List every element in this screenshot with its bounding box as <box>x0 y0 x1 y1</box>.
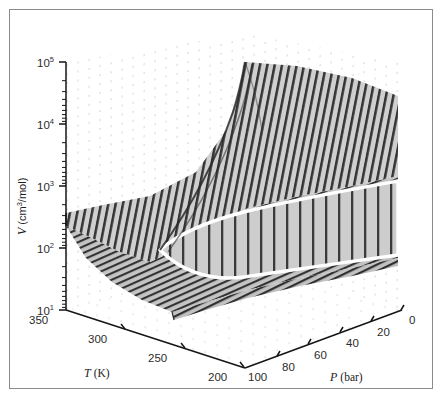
svg-text:V(cm3/mol): V(cm3/mol) <box>15 178 29 235</box>
p-tick-100: 100 <box>248 371 267 383</box>
t-tick-300: 300 <box>88 333 107 345</box>
v-tick-3: 103 <box>37 179 54 193</box>
v-tick-2: 102 <box>37 241 54 255</box>
p-tick-0: 0 <box>409 314 415 326</box>
v-axis <box>59 62 66 310</box>
t-tick-350: 350 <box>29 314 48 326</box>
t-axis-title: T(K) <box>84 366 110 380</box>
v-tick-4: 104 <box>37 117 54 131</box>
v-axis-title: V(cm3/mol) <box>15 178 29 235</box>
p-tick-40: 40 <box>346 337 359 349</box>
p-tick-20: 20 <box>377 326 390 338</box>
pvt-surface-chart: 105 104 103 102 101 V(cm3/mol) 350 300 <box>0 0 445 400</box>
t-tick-250: 250 <box>148 352 167 364</box>
p-axis-title: P(bar) <box>329 370 363 384</box>
t-tick-200: 200 <box>208 371 227 383</box>
figure-container: 105 104 103 102 101 V(cm3/mol) 350 300 <box>0 0 445 400</box>
p-tick-60: 60 <box>314 349 327 361</box>
p-tick-80: 80 <box>282 361 295 373</box>
v-tick-5: 105 <box>37 55 54 69</box>
v-axis-tick-labels: 105 104 103 102 101 <box>37 55 54 317</box>
